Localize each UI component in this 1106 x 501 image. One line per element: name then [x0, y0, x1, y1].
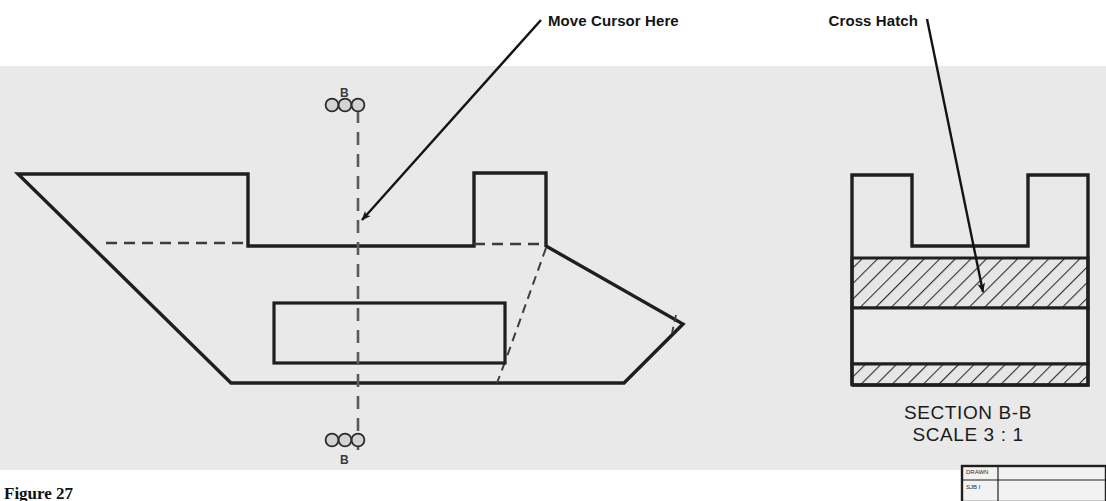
cross-hatch-label: Cross Hatch	[829, 12, 918, 29]
section-hatch-bands	[852, 258, 1088, 385]
title-block-row2: SJB I	[966, 484, 981, 490]
grip-top-3[interactable]	[352, 99, 365, 112]
grip-bottom-1[interactable]	[326, 434, 339, 447]
section-title-line1: SECTION B-B	[904, 402, 1032, 423]
grip-bottom-2[interactable]	[339, 434, 352, 447]
grip-top-1[interactable]	[326, 99, 339, 112]
figure-caption: Figure 27	[4, 484, 74, 501]
grip-top-2[interactable]	[339, 99, 352, 112]
section-title-line2: SCALE 3 : 1	[912, 424, 1023, 445]
move-cursor-here-label: Move Cursor Here	[548, 12, 679, 29]
section-letter-bottom: B	[340, 453, 349, 467]
cad-drawing-canvas: B B SECTION B-B SCALE 3 : 1 DR	[0, 0, 1106, 501]
figure-page: B B SECTION B-B SCALE 3 : 1 DR	[0, 0, 1106, 501]
section-letter-top: B	[340, 86, 349, 100]
grip-bottom-3[interactable]	[352, 434, 365, 447]
upper-hatch-band	[852, 258, 1088, 308]
lower-hatch-band	[852, 364, 1088, 385]
title-block-fragment[interactable]: DRAWN SJB I	[962, 466, 1106, 501]
title-block-row1: DRAWN	[966, 469, 988, 475]
middle-plain-band	[852, 308, 1088, 364]
